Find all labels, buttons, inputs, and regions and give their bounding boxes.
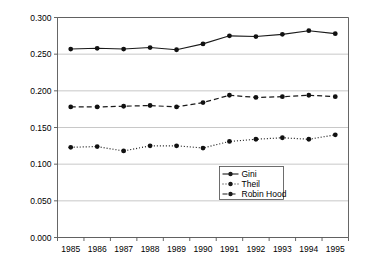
y-tick-label: 0.050 <box>30 196 52 206</box>
gridlines <box>58 18 349 238</box>
data-point <box>280 135 285 140</box>
data-point <box>68 105 73 110</box>
data-point <box>121 104 126 109</box>
line-chart: 0.0000.0500.1000.1500.2000.2500.300 1985… <box>0 0 365 272</box>
data-point <box>306 28 311 33</box>
x-tick-label: 1993 <box>273 244 292 254</box>
x-tick-label: 1989 <box>167 244 186 254</box>
data-point <box>201 146 206 151</box>
series-robin-hood <box>68 93 337 110</box>
data-point <box>121 149 126 154</box>
data-point <box>201 42 206 47</box>
y-tick-label: 0.100 <box>30 159 52 169</box>
x-tick-label: 1992 <box>246 244 265 254</box>
data-point <box>227 93 232 98</box>
y-tick-label: 0.150 <box>30 123 52 133</box>
data-point <box>148 45 153 50</box>
legend-label: Gini <box>242 169 257 179</box>
y-tick-label: 0.300 <box>30 13 52 23</box>
data-point <box>254 34 259 39</box>
y-tick-labels: 0.0000.0500.1000.1500.2000.2500.300 <box>30 13 52 243</box>
x-tick-label: 1991 <box>220 244 239 254</box>
data-point <box>333 94 338 99</box>
data-point <box>306 137 311 142</box>
series-gini <box>68 28 337 52</box>
data-point <box>148 143 153 148</box>
legend-label: Robin Hood <box>242 189 287 199</box>
data-point <box>306 93 311 98</box>
data-point <box>95 46 100 51</box>
data-point <box>280 94 285 99</box>
data-point <box>280 32 285 37</box>
data-point <box>227 139 232 144</box>
chart-container: 0.0000.0500.1000.1500.2000.2500.300 1985… <box>0 0 365 272</box>
legend-marker <box>228 172 232 176</box>
data-point <box>333 31 338 36</box>
y-tick-label: 0.000 <box>30 233 52 243</box>
data-point <box>201 100 206 105</box>
data-point <box>174 143 179 148</box>
x-tick-label: 1987 <box>114 244 133 254</box>
legend-label: Theil <box>242 179 261 189</box>
legend-marker <box>228 182 232 186</box>
x-tick-label: 1994 <box>299 244 318 254</box>
x-tick-label: 1990 <box>194 244 213 254</box>
data-point <box>68 47 73 52</box>
x-tick-labels: 1985198619871988198919901991199219931994… <box>61 244 345 254</box>
series-line <box>71 31 336 50</box>
x-tick-label: 1986 <box>88 244 107 254</box>
series-theil <box>68 132 337 153</box>
x-tick-label: 1988 <box>141 244 160 254</box>
chart-legend: GiniTheilRobin Hood <box>220 167 287 200</box>
data-point <box>254 137 259 142</box>
x-tick-label: 1995 <box>326 244 345 254</box>
data-point <box>174 47 179 52</box>
y-tick-label: 0.200 <box>30 86 52 96</box>
data-point <box>174 105 179 110</box>
data-point <box>95 144 100 149</box>
data-point <box>68 145 73 150</box>
data-point <box>227 33 232 38</box>
x-tick-label: 1985 <box>61 244 80 254</box>
legend-marker <box>228 192 232 196</box>
data-point <box>95 105 100 110</box>
y-tick-label: 0.250 <box>30 49 52 59</box>
x-axis <box>58 238 349 242</box>
data-point <box>148 103 153 108</box>
data-point <box>121 47 126 52</box>
data-point <box>254 95 259 100</box>
data-point <box>333 132 338 137</box>
